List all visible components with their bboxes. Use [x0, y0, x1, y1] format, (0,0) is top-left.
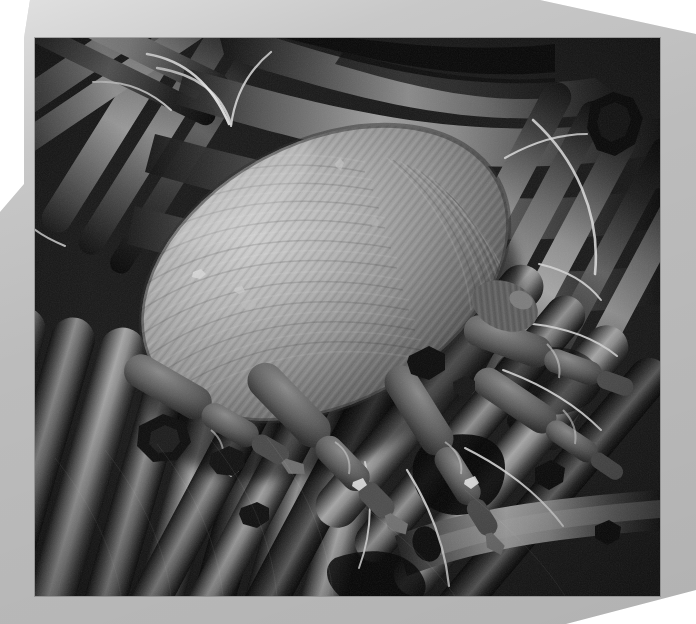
sem-image-canvas [35, 38, 660, 596]
sem-micrograph-photo: Grayscale SEM image showing a plump oval… [35, 38, 660, 596]
screenshot-stage: Grayscale SEM image showing a plump oval… [0, 0, 696, 624]
